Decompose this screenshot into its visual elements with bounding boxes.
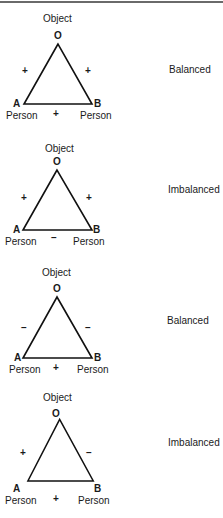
vertex-a: A	[13, 98, 20, 110]
sign-bo: +	[86, 193, 92, 203]
vertex-b: B	[94, 98, 101, 110]
vertex-o: O	[52, 408, 60, 420]
vertex-b: B	[94, 483, 101, 495]
triad-3: Object O A B Person Person – – + Balance…	[0, 253, 223, 381]
object-label: Object	[43, 392, 72, 404]
vertex-a: A	[14, 352, 21, 364]
vertex-a: A	[13, 224, 20, 236]
sign-bo: –	[85, 323, 91, 333]
person-a-label: Person	[5, 495, 37, 507]
triad-2: Object O A B Person Person + + – Imbalan…	[0, 126, 223, 254]
status-label: Imbalanced	[168, 437, 220, 449]
sign-ab: +	[53, 109, 59, 119]
object-label: Object	[45, 143, 74, 155]
sign-bo: +	[85, 66, 91, 76]
person-a-label: Person	[6, 110, 38, 122]
person-b-label: Person	[73, 236, 105, 248]
status-label: Imbalanced	[168, 184, 220, 196]
triad-1: Object O A B Person Person + + + Balance…	[0, 0, 223, 128]
sign-ao: +	[21, 193, 27, 203]
sign-ao: –	[21, 323, 27, 333]
sign-ab: +	[53, 494, 59, 504]
sign-ao: +	[22, 66, 28, 76]
sign-bo: –	[86, 448, 92, 458]
vertex-o: O	[54, 30, 62, 42]
vertex-b: B	[94, 352, 101, 364]
object-label: Object	[43, 13, 72, 25]
object-label: Object	[42, 267, 71, 279]
sign-ao: +	[20, 448, 26, 458]
sign-ab: +	[53, 363, 59, 373]
vertex-o: O	[53, 283, 61, 295]
vertex-a: A	[13, 483, 20, 495]
sign-ab: –	[51, 233, 57, 243]
status-label: Balanced	[169, 64, 211, 76]
triad-4: Object O A B Person Person + – + Imbalan…	[0, 381, 223, 509]
status-label: Balanced	[167, 315, 209, 327]
person-b-label: Person	[77, 364, 109, 376]
person-b-label: Person	[80, 110, 112, 122]
vertex-b: B	[93, 224, 100, 236]
person-a-label: Person	[9, 364, 41, 376]
person-b-label: Person	[78, 495, 110, 507]
vertex-o: O	[53, 156, 61, 168]
person-a-label: Person	[5, 236, 37, 248]
